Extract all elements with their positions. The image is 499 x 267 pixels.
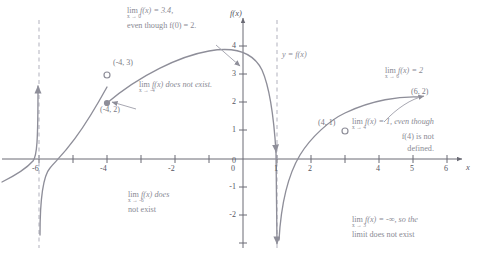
point-label-6-2: (6, 2) (411, 87, 428, 96)
annotation-limit-at-0-note: even though f(0) = 2. (127, 21, 196, 31)
annotation-limit-at-4-note2: defined. (352, 144, 434, 154)
y-axis-label: f(x) (230, 8, 242, 18)
y-tick-label: -2 (219, 210, 236, 219)
limit-operator: lim x → 0 (127, 6, 138, 16)
y-tick-label: -1 (219, 182, 236, 191)
limit-operator: lim x → 4 (352, 117, 363, 127)
annotation-limit-at-neg6: lim x → -6 f(x) does not exist (128, 190, 169, 216)
y-tick-label: 3 (224, 69, 236, 78)
annotation-limit-at-6-expr: f(x) = 2 (398, 66, 423, 75)
annotation-limit-at-6: lim x → 6 f(x) = 2 (385, 66, 423, 80)
x-tick-label: -6 (32, 164, 39, 173)
y-tick-label: 0 (224, 156, 236, 165)
x-tick-label: -2 (168, 164, 175, 173)
annotation-limit-at-4-note: f(4) is not (352, 132, 434, 142)
x-axis-label: x (466, 162, 470, 172)
annotation-limit-at-4: lim x → 4 f(x) = 1, even though f(4) is … (352, 117, 434, 154)
limit-operator: lim x → 6 (385, 66, 396, 76)
limit-operator: lim x → 3 (352, 215, 363, 225)
annotation-limit-at-neg4-expr: f(x) does not exist. (152, 80, 212, 89)
limit-graph-figure: -6 -4 -2 0 1 2 4 5 6 4 3 2 1 0 -1 -2 f(x… (0, 0, 499, 267)
annotation-limit-at-3: lim x → 3 f(x) = -∞, so the limit does n… (352, 215, 418, 241)
annotation-limit-at-3-expr: f(x) = -∞, so the (365, 215, 418, 224)
annotation-limit-at-neg6-note: not exist (128, 205, 169, 215)
curve-label: y = f(x) (282, 50, 307, 59)
x-tick-label: 0 (231, 164, 235, 173)
point-label-neg4-3: (-4, 3) (113, 58, 133, 67)
annotation-limit-at-3-note: limit does not exist (352, 230, 418, 240)
annotation-limit-at-0: lim x → 0 f(x) = 3.4, even though f(0) =… (127, 6, 196, 32)
limit-operator: lim x → -6 (128, 190, 139, 200)
point-label-neg4-2: (-4, 2) (100, 105, 120, 114)
annotation-limit-at-0-expr: f(x) = 3.4, (140, 6, 173, 15)
limit-operator: lim x → -4 (139, 80, 150, 90)
y-tick-label: 2 (224, 97, 236, 106)
x-tick-label: 4 (376, 164, 380, 173)
open-circle-4-1 (342, 128, 348, 134)
y-tick-label: 4 (224, 41, 236, 50)
x-tick-label: 2 (308, 164, 312, 173)
x-tick-label: -4 (100, 164, 107, 173)
x-tick-label: 6 (444, 164, 448, 173)
open-circle-neg4-3 (104, 72, 110, 78)
x-tick-label: 5 (410, 164, 414, 173)
x-tick-label: 1 (274, 164, 278, 173)
y-tick-label: 1 (224, 125, 236, 134)
annotation-limit-at-neg6-expr: f(x) does (141, 190, 169, 199)
annotation-limit-at-neg4: lim x → -4 f(x) does not exist. (139, 80, 212, 94)
annotation-limit-at-4-expr: f(x) = 1, even though (365, 117, 434, 126)
point-label-4-1: (4, 1) (318, 118, 335, 127)
